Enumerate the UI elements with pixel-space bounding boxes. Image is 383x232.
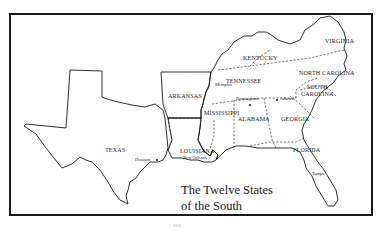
- houston-dot-icon: [156, 159, 158, 161]
- border-tx-la: [168, 118, 172, 150]
- border-ky-tn-va-nc: [218, 50, 344, 70]
- label-new-orleans: New Orleans: [183, 156, 207, 161]
- label-mississippi: MISSISSIPPI: [204, 110, 240, 116]
- map-title: The Twelve States of the South: [181, 183, 273, 214]
- label-virginia: VIRGINIA: [325, 38, 354, 44]
- label-kentucky: KENTUCKY: [243, 55, 278, 61]
- label-memphis: Memphis: [215, 83, 232, 88]
- label-south-carolina: SOUTH CAROLINA: [301, 84, 334, 98]
- label-georgia: GEORGIA: [281, 116, 309, 122]
- label-south-carolina-line2: CAROLINA: [301, 91, 334, 98]
- label-tampa: Tampa: [312, 172, 324, 177]
- texas-outline: [24, 70, 168, 204]
- birmingham-dot-icon: [249, 104, 251, 106]
- border-ms-la: [210, 120, 214, 150]
- label-arkansas: ARKANSAS: [168, 93, 202, 99]
- map-title-line2: of the South: [181, 199, 273, 215]
- label-birmingham: Birmingham: [236, 97, 259, 102]
- border-al-ga: [264, 98, 276, 148]
- border-ga-fl: [250, 138, 304, 146]
- label-south-carolina-line1: SOUTH: [301, 84, 334, 91]
- label-louisiana: LOUISIANA: [180, 148, 214, 154]
- label-north-carolina: NORTH CAROLINA: [299, 70, 355, 76]
- map-title-line1: The Twelve States: [181, 183, 273, 199]
- page-mark: [173, 224, 181, 227]
- label-atlanta: Atlanta: [280, 97, 293, 102]
- label-houston: Houston: [135, 158, 150, 163]
- atlanta-dot-icon: [276, 99, 278, 101]
- label-texas: TEXAS: [105, 147, 125, 153]
- label-florida: FLORIDA: [293, 147, 320, 153]
- border-ga-sc: [290, 96, 314, 118]
- label-alabama: ALABAMA: [238, 116, 270, 122]
